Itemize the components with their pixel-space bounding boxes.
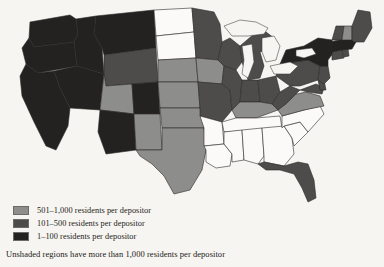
legend-swatch-501-1000 (13, 206, 29, 215)
state-NM[interactable] (134, 114, 162, 150)
state-NH[interactable] (342, 26, 352, 40)
state-AZ[interactable] (98, 110, 136, 154)
state-KS[interactable] (158, 82, 200, 108)
lake-huron-icon (262, 36, 280, 62)
state-MT[interactable] (94, 10, 156, 55)
legend-item-501-1000[interactable]: 501–1,000 residents per depositor (13, 204, 243, 216)
us-states-map (8, 4, 380, 204)
map-caption: Unshaded regions have more than 1,000 re… (6, 249, 225, 259)
state-KY[interactable] (232, 102, 278, 118)
state-OK[interactable] (160, 108, 204, 128)
state-ME[interactable] (352, 10, 372, 42)
lake-superior-icon (224, 20, 268, 36)
map-figure-page: 501–1,000 residents per depositor 101–50… (0, 0, 384, 267)
legend-item-1-100[interactable]: 1–100 residents per depositor (13, 230, 243, 242)
map-legend: 501–1,000 residents per depositor 101–50… (13, 204, 243, 243)
state-CO[interactable] (132, 82, 160, 114)
legend-swatch-1-100 (13, 232, 29, 241)
legend-swatch-101-500 (13, 219, 29, 228)
legend-item-101-500[interactable]: 101–500 residents per depositor (13, 217, 243, 229)
state-IN[interactable] (240, 80, 260, 102)
legend-label-1-100: 1–100 residents per depositor (37, 232, 136, 241)
state-FL[interactable] (258, 162, 316, 202)
state-AL[interactable] (242, 128, 264, 164)
state-MN[interactable] (192, 8, 222, 60)
state-ND[interactable] (154, 8, 194, 36)
choropleth-figure: 501–1,000 residents per depositor 101–50… (0, 0, 384, 267)
legend-label-101-500: 101–500 residents per depositor (37, 219, 145, 228)
legend-label-501-1000: 501–1,000 residents per depositor (37, 206, 151, 215)
state-NE[interactable] (158, 58, 198, 82)
state-WY[interactable] (104, 48, 158, 86)
state-NJ[interactable] (318, 66, 330, 84)
state-SD[interactable] (156, 32, 196, 60)
state-shapes-group (20, 8, 372, 202)
